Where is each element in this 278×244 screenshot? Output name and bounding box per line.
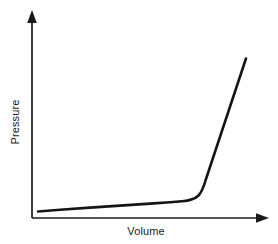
isotherm-curve [38,59,246,212]
y-axis-label: Pressure [9,100,21,145]
chart-plot-area [0,0,278,244]
x-axis-arrow-icon [256,213,269,223]
x-axis-label: Volume [0,225,278,237]
y-axis-label-container: Pressure [0,0,30,244]
pressure-volume-chart: Pressure Volume [0,0,278,244]
